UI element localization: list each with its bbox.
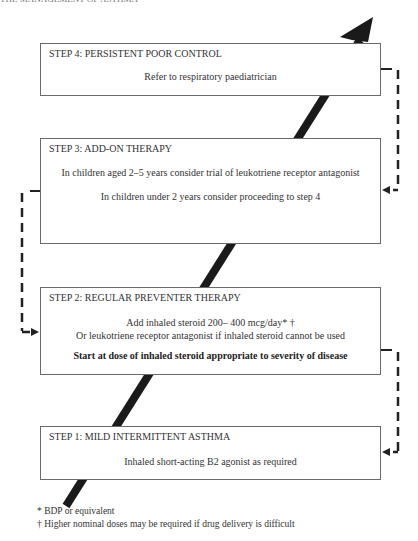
step-1-box: STEP 1: MILD INTERMITTENT ASTHMA Inhaled… bbox=[40, 426, 381, 480]
step-2-emphasis: Start at dose of inhaled steroid appropr… bbox=[41, 350, 380, 361]
arrowhead-left-icon bbox=[382, 448, 390, 456]
footnote-asterisk: * BDP or equivalent bbox=[37, 506, 114, 516]
step-2-text-1: Add inhaled steroid 200– 400 mcg/day* † bbox=[41, 317, 380, 328]
step-1-text: Inhaled short-acting B2 agonist as requi… bbox=[41, 456, 380, 467]
step-2-text-2: Or leukotriene receptor antagonist if in… bbox=[41, 330, 380, 341]
arrowhead-left-icon bbox=[382, 186, 390, 194]
step-down-connector-4-to-3 bbox=[381, 69, 398, 194]
step-down-connector-3-to-2 bbox=[22, 191, 40, 336]
step-3-text-1: In children aged 2–5 years consider tria… bbox=[41, 167, 380, 178]
footnote-dagger: † Higher nominal doses may be required i… bbox=[37, 519, 295, 529]
step-4-text: Refer to respiratory paediatrician bbox=[41, 71, 380, 82]
step-up-arrowhead-icon bbox=[340, 17, 373, 42]
step-1-title: STEP 1: MILD INTERMITTENT ASTHMA bbox=[49, 431, 230, 442]
running-header: THE MANAGEMENT OF ASTHMA bbox=[0, 0, 138, 4]
step-4-title: STEP 4: PERSISTENT POOR CONTROL bbox=[49, 48, 222, 59]
step-4-box: STEP 4: PERSISTENT POOR CONTROL Refer to… bbox=[40, 43, 381, 96]
step-3-title: STEP 3: ADD-ON THERAPY bbox=[49, 143, 172, 154]
step-3-text-2: In children under 2 years consider proce… bbox=[41, 191, 380, 202]
step-down-connector-2-to-1 bbox=[381, 350, 398, 456]
step-2-box: STEP 2: REGULAR PREVENTER THERAPY Add in… bbox=[40, 287, 381, 375]
arrowhead-right-icon bbox=[31, 328, 39, 336]
step-3-box: STEP 3: ADD-ON THERAPY In children aged … bbox=[40, 138, 381, 244]
step-2-title: STEP 2: REGULAR PREVENTER THERAPY bbox=[49, 292, 241, 303]
